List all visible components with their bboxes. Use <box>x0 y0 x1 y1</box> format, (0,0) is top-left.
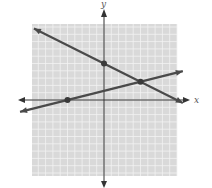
point-x-intercept-line-2 <box>65 97 71 103</box>
y-axis-down-arrow <box>101 181 107 188</box>
x-axis-right-arrow <box>183 97 190 103</box>
coordinate-graph: x y <box>0 0 212 188</box>
y-axis-up-arrow <box>101 9 107 17</box>
point-intersection <box>138 79 144 85</box>
y-axis-label: y <box>100 0 107 9</box>
x-axis-label: x <box>194 95 199 105</box>
x-axis-left-arrow <box>18 97 25 103</box>
point-y-intercept-line-1 <box>101 61 107 67</box>
